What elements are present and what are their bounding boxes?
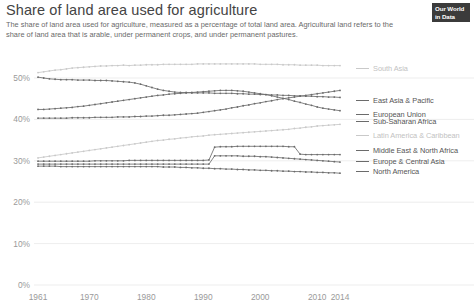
data-point [123,81,125,83]
data-point [117,160,119,162]
data-point [248,91,250,93]
legend-item[interactable]: Latin America & Caribbean [356,130,460,141]
data-point [168,138,170,140]
data-point [311,95,313,97]
data-point [208,111,210,113]
legend-item[interactable]: Sub-Saharan Africa [356,116,436,127]
data-point [88,160,90,162]
data-point [202,63,204,65]
data-point [88,66,90,68]
series-middle-east-north-africa [37,145,341,162]
data-point [219,92,221,94]
data-point [88,79,90,81]
data-point [60,117,62,119]
data-point [191,163,193,165]
data-point [83,163,85,165]
data-point [94,66,96,68]
legend-line-swatch [356,171,369,172]
legend-item[interactable]: Europe & Central Asia [356,156,445,167]
data-point [111,80,113,82]
data-point [49,163,51,165]
data-point [49,108,51,110]
data-point [197,167,199,169]
data-point [140,163,142,165]
data-point [231,155,233,157]
data-point [214,134,216,136]
data-point [333,90,335,92]
x-axis-tick-labels: 1961197019801990200020102014 [29,292,350,302]
data-point [100,80,102,82]
our-world-in-data-logo[interactable]: Our World in Data [432,3,470,22]
data-point [60,79,62,81]
data-point [37,165,39,167]
data-point [71,67,73,69]
data-point [49,165,51,167]
data-point [322,125,324,127]
data-point [225,133,227,135]
data-point [208,163,210,165]
data-point [242,105,244,107]
data-point [66,166,68,168]
y-axis-tick-label: 40% [13,114,30,124]
legend-item-label: Europe & Central Asia [373,157,445,166]
data-point [271,63,273,65]
data-point [37,109,39,111]
legend-item[interactable]: South Asia [356,63,408,74]
legend-item[interactable]: East Asia & Pacific [356,95,434,106]
data-point [322,107,324,109]
data-point [60,160,62,162]
legend-item[interactable]: North America [356,166,419,177]
data-point [197,135,199,137]
data-point [162,94,164,96]
data-point [254,131,256,133]
data-point [145,159,147,161]
data-point [145,85,147,87]
data-point [71,160,73,162]
data-point [219,146,221,148]
data-point [288,99,290,101]
data-point [242,132,244,134]
data-point [123,99,125,101]
data-point [66,107,68,109]
data-point [248,131,250,133]
data-point [157,140,159,142]
data-point [242,145,244,147]
data-point [162,139,164,141]
data-point [231,133,233,135]
data-point [66,117,68,119]
data-point [299,95,301,97]
data-point [117,116,119,118]
data-point [294,171,296,173]
data-point [157,159,159,161]
data-point [328,124,330,126]
data-point [305,154,307,156]
chart-header: Share of land area used for agriculture … [6,2,426,39]
data-point [299,153,301,155]
data-point [134,98,136,100]
data-point [37,160,39,162]
data-point [83,166,85,168]
data-point [322,171,324,173]
legend-item-label: North America [373,167,419,176]
data-point [49,160,51,162]
data-point [140,166,142,168]
data-point [288,170,290,172]
data-point [134,163,136,165]
legend-line-swatch [356,100,369,101]
data-point [145,166,147,168]
data-point [294,100,296,102]
data-point [123,163,125,165]
data-point [94,149,96,151]
data-point [71,166,73,168]
x-axis-tick-label: 1970 [80,292,99,302]
data-point [311,126,313,128]
x-axis-tick-label: 2010 [308,292,327,302]
data-point [237,132,239,134]
data-point [237,90,239,92]
legend-item-label: South Asia [373,64,408,73]
data-point [54,155,56,157]
legend-item[interactable]: Middle East & North Africa [356,145,458,156]
data-point [54,78,56,80]
data-point [88,166,90,168]
data-point [305,94,307,96]
